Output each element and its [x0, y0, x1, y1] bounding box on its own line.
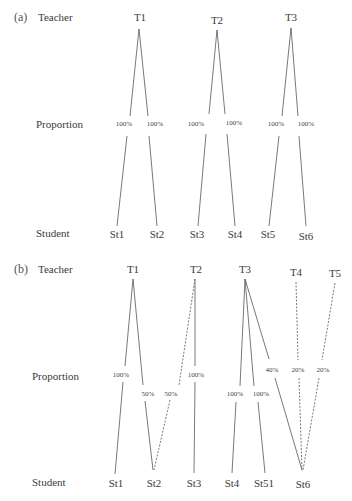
- panel-b-edges: [115, 279, 335, 474]
- edge-lines: [0, 0, 352, 501]
- panel-a-edges: [117, 28, 306, 226]
